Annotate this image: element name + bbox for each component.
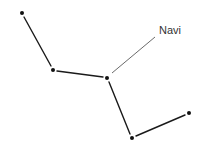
star-label-navi: Navi bbox=[159, 24, 181, 36]
line-s1-s2 bbox=[24, 17, 51, 66]
star-2 bbox=[51, 68, 55, 72]
constellation-diagram: Navi bbox=[0, 0, 202, 149]
line-s4-s5 bbox=[136, 115, 185, 136]
label-pointer-line bbox=[112, 37, 155, 73]
star-5 bbox=[187, 111, 191, 115]
star-navi bbox=[105, 76, 109, 80]
line-s3-s4 bbox=[109, 82, 130, 134]
line-s2-s3 bbox=[57, 71, 103, 77]
star-1 bbox=[20, 11, 24, 15]
star-4 bbox=[130, 136, 134, 140]
